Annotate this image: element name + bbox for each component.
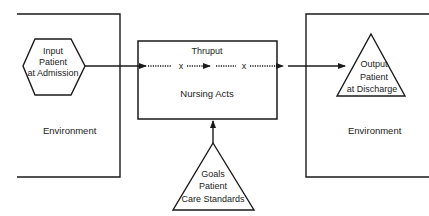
systems-diagram: Environment Input Patient at Admission T… <box>0 0 429 216</box>
goals-line-3: Care Standards <box>181 194 245 204</box>
thruput-label: Nursing Acts <box>180 88 234 99</box>
right-environment-label: Environment <box>348 125 402 136</box>
input-line-1: Input <box>43 46 64 56</box>
thruput-title: Thruput <box>191 46 223 56</box>
goals-line-1: Goals <box>201 169 225 179</box>
input-line-2: Patient <box>39 57 68 67</box>
goals-line-2: Patient <box>199 181 228 191</box>
left-environment-label: Environment <box>43 125 97 136</box>
process-marker-2: x <box>242 61 247 71</box>
input-line-3: at Admission <box>27 68 78 78</box>
process-marker-1: x <box>179 61 184 71</box>
output-line-1: Output <box>360 59 388 69</box>
output-line-2: Patient <box>360 72 389 82</box>
output-line-3: at Discharge <box>347 84 398 94</box>
